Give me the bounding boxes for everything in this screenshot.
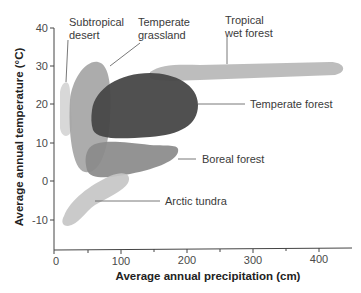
- y-tick-10: 10: [36, 137, 48, 149]
- x-tick-300: 300: [244, 254, 262, 266]
- label-temperate-grassland-line1: Temperate: [138, 16, 190, 28]
- y-tick-neg10: -10: [32, 214, 48, 226]
- label-tropical-wet-forest-line1: Tropical: [225, 14, 264, 26]
- y-tick-30: 30: [36, 60, 48, 72]
- x-tick-100: 100: [112, 255, 130, 267]
- x-axis-line: [54, 248, 352, 250]
- x-tick-0: 0: [53, 255, 59, 267]
- leader-subtropical-desert: [66, 40, 68, 82]
- label-temperate-forest: Temperate forest: [250, 98, 333, 110]
- label-subtropical-desert-line2: desert: [69, 29, 100, 41]
- y-axis-title: Average annual temperature (°C): [13, 48, 25, 227]
- x-tick-labels: 0 100 200 300 400: [53, 253, 328, 267]
- x-tick-400: 400: [310, 253, 328, 265]
- leader-temperate-grassland: [110, 43, 140, 66]
- label-boreal-forest: Boreal forest: [202, 153, 264, 165]
- region-tropical-wet-forest: [150, 62, 343, 81]
- label-subtropical-desert-line1: Subtropical: [69, 16, 124, 28]
- label-tropical-wet-forest-line2: wet forest: [224, 27, 273, 39]
- x-tick-200: 200: [178, 254, 196, 266]
- y-tick-20: 20: [36, 98, 48, 110]
- y-tick-labels: 40 30 20 10 0 -10: [32, 22, 48, 226]
- label-temperate-grassland-line2: grassland: [138, 29, 186, 41]
- region-arctic-tundra: [62, 173, 129, 226]
- label-arctic-tundra: Arctic tundra: [165, 195, 228, 207]
- y-tick-0: 0: [42, 175, 48, 187]
- biome-climate-chart: 40 30 20 10 0 -10 0 100 200 300 400 Aver…: [0, 0, 361, 293]
- region-boreal-forest: [86, 142, 179, 177]
- y-tick-40: 40: [36, 22, 48, 34]
- x-axis-title: Average annual precipitation (cm): [116, 270, 301, 282]
